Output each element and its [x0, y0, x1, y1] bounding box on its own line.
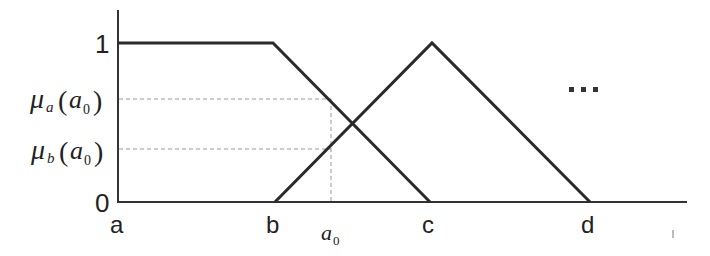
svg-text:0: 0 — [83, 102, 90, 117]
svg-text:0: 0 — [84, 153, 91, 168]
ellipsis-continuation — [569, 87, 598, 92]
mu-b-label: μ b ( a 0 ) — [30, 134, 103, 168]
stray-mark — [672, 230, 674, 238]
svg-text:μ: μ — [29, 83, 44, 114]
fuzzy-membership-diagram: 1 0 μ a ( a 0 ) μ b ( a 0 ) a b a 0 c d — [0, 0, 710, 256]
x-tick-a0: a 0 — [321, 220, 340, 248]
svg-text:a: a — [69, 85, 82, 114]
trapezoid-mu-a — [118, 43, 430, 202]
svg-text:a: a — [46, 99, 54, 115]
y-tick-1: 1 — [95, 29, 109, 59]
svg-text:): ) — [94, 136, 103, 167]
svg-text:μ: μ — [30, 134, 45, 165]
x-tick-c: c — [422, 211, 434, 238]
x-tick-d: d — [581, 211, 594, 238]
svg-text:(: ( — [58, 85, 67, 116]
triangle-mu-b — [275, 43, 590, 202]
svg-text:b: b — [47, 150, 55, 166]
svg-text:): ) — [93, 85, 102, 116]
svg-text:a: a — [321, 220, 332, 245]
y-tick-0: 0 — [95, 188, 109, 218]
x-tick-b: b — [266, 211, 279, 238]
mu-a-label: μ a ( a 0 ) — [29, 83, 102, 117]
svg-text:(: ( — [59, 136, 68, 167]
x-tick-a: a — [110, 211, 124, 238]
svg-text:0: 0 — [333, 233, 340, 248]
svg-text:a: a — [70, 136, 83, 165]
diagram-canvas: 1 0 μ a ( a 0 ) μ b ( a 0 ) a b a 0 c d — [0, 0, 710, 256]
